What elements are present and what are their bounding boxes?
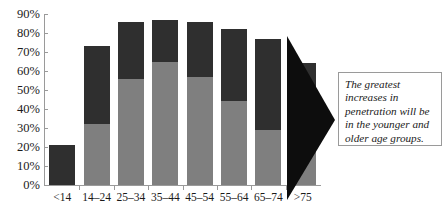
- stacked-bar-chart: 90%80%70%60%50%40%30%20%10%0% <1414–2425…: [0, 0, 448, 222]
- bar-segment-current: [187, 77, 213, 185]
- x-axis-tick-label: 14–24: [82, 191, 111, 203]
- x-axis-tick-mark: [183, 186, 184, 190]
- bar-segment-current: [152, 62, 178, 186]
- bar: [84, 46, 110, 185]
- y-axis-tick-label: 80%: [17, 27, 40, 40]
- callout-text: The greatest increases in penetration wi…: [345, 78, 435, 145]
- x-axis-tick-label: 55–64: [220, 191, 249, 203]
- bar: [118, 22, 144, 185]
- bar: [255, 39, 281, 185]
- bar: [187, 22, 213, 185]
- bar-segment-increase: [118, 22, 144, 79]
- bar: [49, 145, 75, 185]
- x-axis-labels: <1414–2425–3435–4445–5455–6465–74>75: [45, 191, 320, 213]
- y-axis-labels: 90%80%70%60%50%40%30%20%10%0%: [0, 0, 44, 190]
- y-axis-tick-mark: [44, 14, 48, 15]
- y-axis-tick-mark: [44, 185, 48, 186]
- x-axis-tick-label: 45–54: [185, 191, 214, 203]
- x-axis-tick-mark: [79, 186, 80, 190]
- y-axis-tick-label: 30%: [17, 122, 40, 135]
- bar-segment-current: [84, 124, 110, 185]
- y-axis-tick-label: 50%: [17, 84, 40, 97]
- y-axis-tick-mark: [44, 128, 48, 129]
- y-axis-tick-label: 90%: [17, 8, 40, 21]
- bar-segment-current: [255, 130, 281, 185]
- y-axis-tick-mark: [44, 52, 48, 53]
- x-axis-tick-mark: [148, 186, 149, 190]
- x-axis-tick-label: 65–74: [254, 191, 283, 203]
- y-axis-tick-mark: [44, 166, 48, 167]
- y-axis-tick-label: 40%: [17, 103, 40, 116]
- bar-segment-current: [118, 79, 144, 185]
- y-axis-tick-mark: [44, 71, 48, 72]
- bar-segment-current: [221, 101, 247, 185]
- x-axis-tick-label: 35–44: [151, 191, 180, 203]
- y-axis-tick-mark: [44, 90, 48, 91]
- y-axis-tick-mark: [44, 33, 48, 34]
- x-axis-tick-mark: [114, 186, 115, 190]
- bar-segment-increase: [221, 29, 247, 101]
- callout-arrow-icon: [286, 34, 336, 202]
- x-axis-tick-label: <14: [53, 191, 71, 203]
- y-axis-tick-label: 70%: [17, 46, 40, 59]
- bar-segment-increase: [152, 20, 178, 62]
- bar-segment-increase: [49, 145, 75, 185]
- y-axis-tick-label: 60%: [17, 65, 40, 78]
- bar-segment-increase: [187, 22, 213, 77]
- plot-area: [45, 14, 320, 185]
- y-axis-tick-mark: [44, 147, 48, 148]
- x-axis-tick-label: 25–34: [117, 191, 146, 203]
- x-axis-tick-mark: [251, 186, 252, 190]
- bar: [152, 20, 178, 185]
- bar-segment-increase: [255, 39, 281, 130]
- y-axis-tick-label: 0%: [23, 179, 40, 192]
- x-axis-tick-mark: [217, 186, 218, 190]
- bar: [221, 29, 247, 185]
- y-axis-tick-mark: [44, 109, 48, 110]
- callout-box: The greatest increases in penetration wi…: [338, 72, 442, 146]
- y-axis-tick-label: 10%: [17, 160, 40, 173]
- x-axis-tick-mark: [286, 186, 287, 190]
- bar-segment-increase: [84, 46, 110, 124]
- y-axis-tick-label: 20%: [17, 141, 40, 154]
